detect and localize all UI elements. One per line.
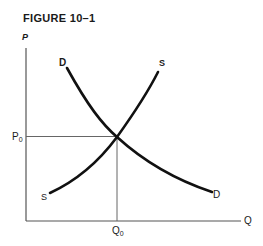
p0-label: P0 — [12, 131, 23, 143]
p0-label-sub: 0 — [19, 136, 23, 143]
supply-demand-chart: P Q P0 Q0 D D S S — [0, 0, 263, 246]
supply-curve — [50, 72, 158, 193]
x-axis-label: Q — [244, 215, 252, 226]
demand-bottom-label: D — [213, 189, 220, 200]
demand-curve — [67, 68, 212, 192]
supply-bottom-label: S — [41, 192, 47, 202]
y-axis-label: P — [22, 32, 29, 42]
demand-top-label: D — [59, 57, 66, 68]
q0-label: Q0 — [112, 225, 124, 237]
supply-top-label: S — [159, 58, 165, 68]
q0-label-sub: 0 — [120, 230, 124, 237]
